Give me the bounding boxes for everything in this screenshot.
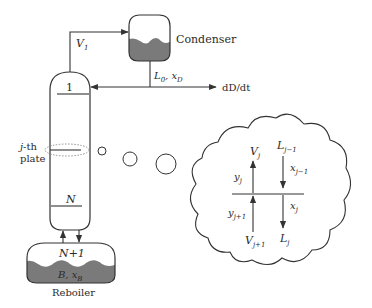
plate-j-label-line2: plate bbox=[20, 153, 46, 164]
condenser bbox=[125, 15, 174, 64]
bubble-medium bbox=[123, 152, 137, 166]
reboiler-label: Reboiler bbox=[52, 287, 95, 298]
distillation-diagram: Condenser V1 L0, xD dD/dt 1 j-th plate N… bbox=[0, 0, 372, 308]
v1-label: V1 bbox=[76, 37, 88, 52]
plate-1-label: 1 bbox=[66, 81, 73, 94]
bubble-large bbox=[156, 154, 176, 174]
plate-n-label: N bbox=[65, 193, 76, 206]
distillate-rate-label: dD/dt bbox=[222, 82, 250, 93]
plate-j-label-line1: j-th bbox=[18, 141, 38, 152]
reboiler-stage-label: N+1 bbox=[58, 247, 85, 260]
condenser-label: Condenser bbox=[176, 33, 237, 46]
bubble-small bbox=[98, 147, 106, 155]
plate-detail-cloud bbox=[190, 114, 350, 264]
reflux-label: L0, xD bbox=[153, 70, 183, 84]
